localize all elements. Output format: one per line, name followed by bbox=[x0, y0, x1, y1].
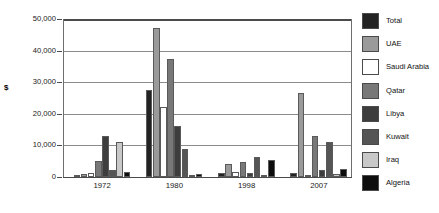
bar bbox=[247, 173, 254, 177]
legend-swatch bbox=[362, 13, 379, 29]
y-tick-mark bbox=[57, 51, 62, 52]
y-tick-mark bbox=[57, 114, 62, 115]
bar bbox=[261, 175, 268, 177]
legend-item[interactable]: Saudi Arabia bbox=[362, 58, 439, 81]
legend-label: Iraq bbox=[386, 155, 399, 164]
legend-swatch bbox=[362, 83, 379, 99]
y-tick-label: 40,000 bbox=[12, 46, 56, 55]
legend-swatch bbox=[362, 106, 379, 122]
bar bbox=[290, 173, 297, 177]
x-tick-label: 1998 bbox=[217, 181, 277, 190]
legend-item[interactable]: Qatar bbox=[362, 82, 439, 105]
bar bbox=[102, 136, 109, 177]
bar bbox=[326, 142, 333, 177]
legend-item[interactable]: UAE bbox=[362, 35, 439, 58]
legend-item[interactable]: Kuwait bbox=[362, 128, 439, 151]
bar bbox=[225, 164, 232, 177]
legend-label: Qatar bbox=[386, 86, 405, 95]
bar bbox=[95, 161, 102, 177]
legend-swatch bbox=[362, 152, 379, 168]
legend-label: UAE bbox=[386, 39, 402, 48]
y-axis-title: $ bbox=[4, 83, 8, 92]
legend-label: Total bbox=[386, 16, 402, 25]
y-tick-mark bbox=[57, 145, 62, 146]
x-tick-label: 2007 bbox=[289, 181, 349, 190]
y-tick-label: 20,000 bbox=[12, 109, 56, 118]
bar-group bbox=[146, 19, 203, 177]
y-tick-label: 10,000 bbox=[12, 140, 56, 149]
bar bbox=[88, 173, 95, 177]
bar bbox=[268, 160, 275, 177]
bar bbox=[333, 174, 340, 177]
bar bbox=[153, 28, 160, 177]
bar bbox=[74, 175, 81, 177]
legend-swatch bbox=[362, 175, 379, 191]
bar bbox=[196, 174, 203, 177]
bar bbox=[116, 142, 123, 177]
legend-label: Saudi Arabia bbox=[386, 62, 429, 71]
y-tick-label: 50,000 bbox=[12, 14, 56, 23]
bar bbox=[124, 172, 131, 177]
bar bbox=[146, 90, 153, 177]
legend-label: Libya bbox=[386, 109, 404, 118]
legend-item[interactable]: Libya bbox=[362, 105, 439, 128]
legend-item[interactable]: Iraq bbox=[362, 151, 439, 174]
legend-item[interactable]: Algeria bbox=[362, 174, 439, 197]
legend-label: Algeria bbox=[386, 178, 410, 187]
bar bbox=[109, 170, 116, 177]
y-tick-label: 0 bbox=[12, 172, 56, 181]
bar-group bbox=[218, 19, 275, 177]
bar bbox=[160, 107, 167, 177]
bar bbox=[182, 149, 189, 177]
bar bbox=[319, 170, 326, 177]
bar-group bbox=[290, 19, 347, 177]
bar bbox=[218, 173, 225, 177]
bar bbox=[167, 59, 174, 178]
bar bbox=[305, 175, 312, 177]
bar bbox=[240, 162, 247, 177]
bar bbox=[312, 136, 319, 177]
legend-label: Kuwait bbox=[386, 132, 409, 141]
bar-chart: $ 50,00040,00030,00020,00010,0000 197219… bbox=[0, 0, 439, 213]
x-tick-label: 1972 bbox=[72, 181, 132, 190]
legend-item[interactable]: Total bbox=[362, 12, 439, 35]
x-tick-label: 1980 bbox=[144, 181, 204, 190]
y-tick-mark bbox=[57, 82, 62, 83]
bar bbox=[254, 157, 261, 177]
bar-group bbox=[74, 19, 131, 177]
legend-swatch bbox=[362, 129, 379, 145]
bars-layer bbox=[63, 19, 352, 177]
bar bbox=[298, 93, 305, 177]
y-tick-mark bbox=[57, 177, 62, 178]
y-tick-mark bbox=[57, 19, 62, 20]
bar bbox=[189, 175, 196, 177]
legend-swatch bbox=[362, 59, 379, 75]
bar bbox=[174, 126, 181, 177]
legend-swatch bbox=[362, 36, 379, 52]
chart-legend: TotalUAESaudi ArabiaQatarLibyaKuwaitIraq… bbox=[362, 12, 439, 198]
y-tick-label: 30,000 bbox=[12, 77, 56, 86]
bar bbox=[340, 169, 347, 177]
bar bbox=[81, 174, 88, 177]
bar bbox=[232, 172, 239, 177]
